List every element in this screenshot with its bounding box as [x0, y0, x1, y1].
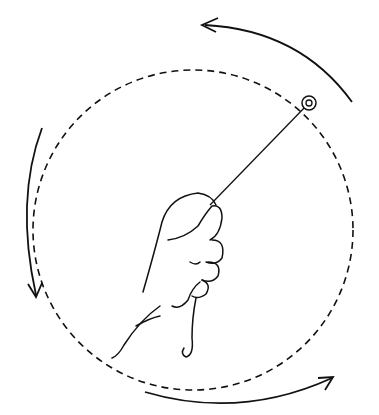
- rotation-arrow-bottom: [145, 377, 333, 403]
- hand: [112, 193, 223, 358]
- whirling-object: [302, 96, 316, 110]
- rotation-arrow-top: [202, 18, 352, 102]
- circular-motion-diagram: [0, 0, 379, 415]
- string: [210, 106, 306, 205]
